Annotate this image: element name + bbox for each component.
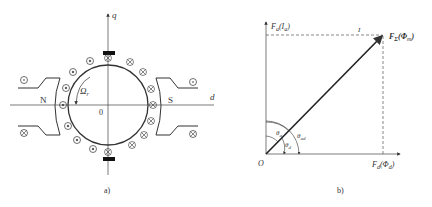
north-pole-label: N — [40, 95, 47, 105]
figure-canvas: q d N S 0 Ωr a) O Fa(Ia) I FΣ(Φm) Fd(Φd)… — [0, 0, 432, 207]
resultant-label: FΣ(Φm) — [388, 32, 414, 42]
figure-b: O Fa(Ia) I FΣ(Φm) Fd(Φd) θa θd θad b) — [258, 22, 414, 195]
d-axis-label: d — [210, 92, 215, 102]
north-pole-shoe — [18, 78, 60, 135]
q-axis-label: q — [112, 10, 117, 20]
bottom-brush — [103, 157, 115, 161]
theta-ad-label: θad — [297, 132, 306, 141]
theta-d-label: θd — [285, 141, 291, 150]
top-dashed-label: I — [357, 26, 361, 34]
south-pole-shoe — [156, 78, 198, 135]
theta-a-label: θa — [276, 129, 282, 138]
figure-a: q d N S 0 Ωr a) — [10, 10, 215, 195]
caption-b: b) — [337, 186, 344, 195]
resultant-vector — [266, 36, 382, 154]
dot-icon — [190, 79, 197, 86]
y-axis-label: Fa(Ia) — [270, 22, 290, 32]
dot-icon — [21, 77, 28, 84]
origin-label-b: O — [258, 159, 264, 168]
x-axis-label: Fd(Φd) — [371, 160, 395, 170]
south-pole-label: S — [168, 95, 173, 105]
origin-label: 0 — [99, 108, 103, 117]
cross-icon — [190, 131, 197, 138]
cross-icon — [21, 130, 28, 137]
rotation-label: Ωr — [80, 86, 90, 97]
caption-a: a) — [104, 186, 111, 195]
